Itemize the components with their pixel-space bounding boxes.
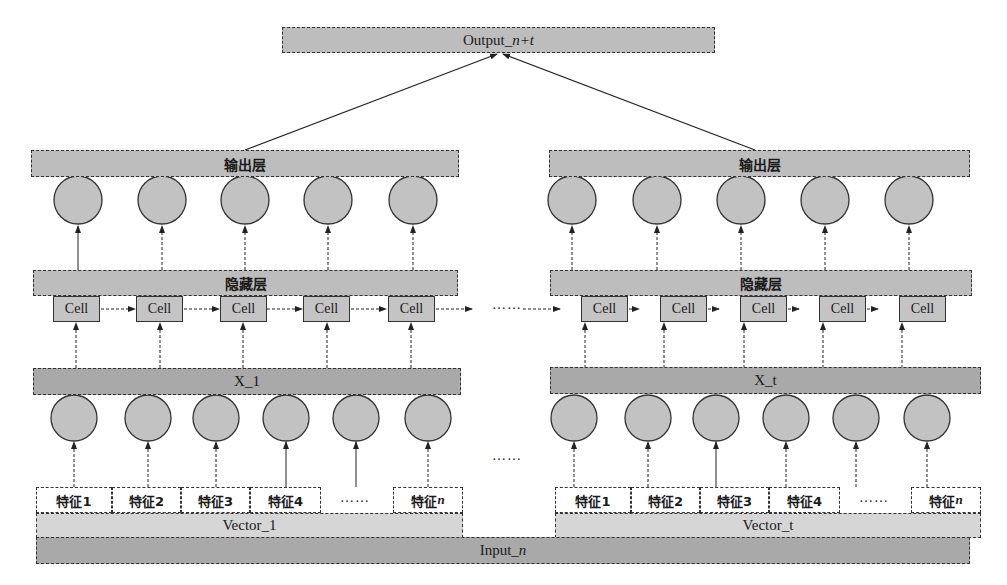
input-label: Input_: [480, 542, 519, 559]
feature-box: 特征3: [700, 487, 769, 513]
vector-bar-left: Vector_1: [36, 513, 463, 538]
output-label: Output_: [463, 32, 512, 49]
lstm-cell: Cell: [740, 296, 787, 322]
feature-box: 特征2: [112, 487, 181, 513]
feature-n-prefix: 特征: [929, 491, 955, 510]
lstm-cell: Cell: [660, 296, 707, 322]
lstm-cell: Cell: [220, 296, 267, 322]
hidden-layer-right: 隐藏层: [550, 270, 972, 296]
feature-n-var: n: [955, 492, 962, 508]
lstm-cell: Cell: [136, 296, 183, 322]
feature-box: 特征1: [36, 487, 112, 513]
lstm-cell: Cell: [581, 296, 628, 322]
lstm-cell: Cell: [899, 296, 946, 322]
feature-box-n: 特征n: [911, 487, 981, 513]
time-ellipsis-top: ……: [492, 297, 522, 313]
lstm-cell: Cell: [819, 296, 866, 322]
feature-n-prefix: 特征: [411, 491, 437, 510]
output-layer-right: 输出层: [549, 150, 970, 177]
feature-n-var: n: [437, 492, 444, 508]
x-layer-left: X_1: [33, 368, 461, 395]
lstm-cell: Cell: [303, 296, 350, 322]
output-layer-left: 输出层: [31, 150, 459, 177]
time-ellipsis-bottom: ……: [492, 448, 522, 464]
feature-box: 特征3: [181, 487, 250, 513]
input-label-var: n: [519, 542, 527, 559]
vector-bar-right: Vector_t: [555, 513, 981, 538]
x-layer-right: X_t: [550, 367, 981, 394]
feature-ellipsis: ……: [340, 490, 370, 506]
hidden-layer-left: 隐藏层: [33, 270, 458, 296]
lstm-cell: Cell: [53, 296, 100, 322]
feature-box-n: 特征n: [393, 487, 463, 513]
input-bar: Input_n: [36, 537, 970, 564]
feature-ellipsis: ……: [859, 490, 889, 506]
feature-box: 特征4: [250, 487, 321, 513]
feature-box: 特征2: [631, 487, 700, 513]
feature-box: 特征1: [555, 487, 631, 513]
output-bar: Output_n+t: [282, 27, 715, 53]
lstm-cell: Cell: [388, 296, 435, 322]
output-label-var: n+t: [512, 32, 534, 49]
feature-box: 特征4: [769, 487, 840, 513]
